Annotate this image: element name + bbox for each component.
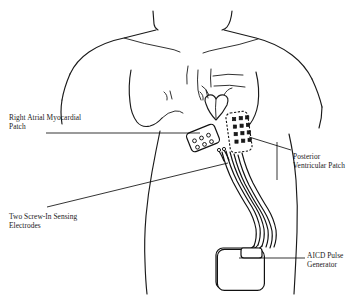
label-posterior-ventricular-patch: Posterior Ventricular Patch	[293, 152, 363, 171]
right-atrial-myocardial-patch	[185, 123, 220, 153]
label-two-screw-in-sensing-electrodes: Two Screw-In Sensing Electrodes	[9, 212, 125, 231]
posterior-ventricular-patch	[225, 111, 252, 154]
aicd-pulse-generator	[216, 248, 264, 290]
aicd-anatomical-figure: Right Atrial Myocardial Patch Two Screw-…	[0, 0, 364, 296]
leader-posterior	[249, 137, 291, 150]
label-aicd-pulse-generator: AICD Pulse Generator	[307, 251, 364, 270]
lead-cable-bundle	[222, 151, 276, 253]
torso-outline	[62, 11, 322, 107]
leader-lines	[46, 133, 305, 258]
left-pectoral-contour	[129, 70, 183, 127]
label-right-atrial-myocardial-patch: Right Atrial Myocardial Patch	[9, 113, 121, 132]
leader-screw-in	[47, 163, 228, 207]
clavicle-lines	[124, 38, 258, 84]
